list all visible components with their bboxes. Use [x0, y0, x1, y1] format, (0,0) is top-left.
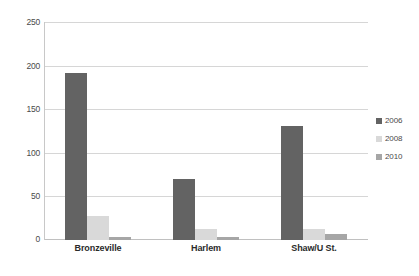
legend-label-2010: 2010	[385, 152, 402, 161]
y-axis-tick-0: 0	[10, 234, 40, 244]
chart-legend: 2006 2008 2010	[376, 116, 402, 161]
x-axis-labels: Bronzeville Harlem Shaw/U St.	[44, 243, 368, 253]
legend-item-2010: 2010	[376, 152, 402, 161]
bar-group-bronzeville	[44, 22, 152, 240]
legend-item-2006: 2006	[376, 116, 402, 125]
bar-groups	[44, 22, 368, 240]
legend-label-2008: 2008	[385, 134, 402, 143]
y-axis-tick-250: 250	[10, 17, 40, 27]
bar-harlem-2010	[217, 237, 239, 240]
legend-swatch-icon-2008	[376, 136, 382, 142]
y-axis-tick-100: 100	[10, 148, 40, 158]
bar-chart: 250 200 150 100 50 0 Bronzeville Harlem …	[0, 0, 419, 276]
bar-shaw-2006	[281, 126, 303, 240]
legend-item-2008: 2008	[376, 134, 402, 143]
bar-shaw-2008	[303, 229, 325, 240]
bar-harlem-2008	[195, 229, 217, 240]
y-axis-tick-150: 150	[10, 104, 40, 114]
legend-swatch-icon-2006	[376, 118, 382, 124]
bar-bronzeville-2006	[65, 73, 87, 240]
bar-group-harlem	[152, 22, 260, 240]
x-axis-label-bronzeville: Bronzeville	[44, 243, 152, 253]
bar-shaw-2010	[325, 234, 347, 240]
bar-bronzeville-2008	[87, 216, 109, 240]
y-axis-tick-50: 50	[10, 191, 40, 201]
x-axis-label-shaw-u-st: Shaw/U St.	[260, 243, 368, 253]
bar-harlem-2006	[173, 179, 195, 240]
bar-group-shaw-u-st	[260, 22, 368, 240]
legend-label-2006: 2006	[385, 116, 402, 125]
y-axis-tick-200: 200	[10, 61, 40, 71]
legend-swatch-icon-2010	[376, 154, 382, 160]
x-axis-label-harlem: Harlem	[152, 243, 260, 253]
bar-bronzeville-2010	[109, 237, 131, 240]
